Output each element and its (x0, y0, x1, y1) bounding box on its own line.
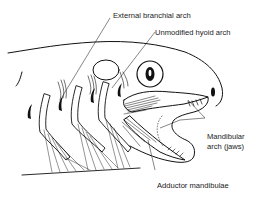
eye (137, 61, 163, 87)
branchial-arches (28, 72, 131, 172)
adductor-muscle (122, 96, 160, 146)
nostril (211, 88, 215, 97)
label-mandibular-arch-jaws: arch (jaws) (207, 142, 245, 151)
upper-jaw (123, 91, 208, 112)
label-adductor-mandibulae: Adductor mandibulae (157, 181, 229, 190)
anatomy-diagram: External branchial arch Unmodified hyoid… (0, 0, 271, 209)
label-mandibular-arch: Mandibular (207, 132, 245, 141)
leader-lines (62, 18, 205, 170)
label-external-branchial-arch: External branchial arch (113, 11, 191, 20)
otic-capsule (93, 60, 119, 80)
label-unmodified-hyoid-arch: Unmodified hyoid arch (155, 28, 231, 37)
